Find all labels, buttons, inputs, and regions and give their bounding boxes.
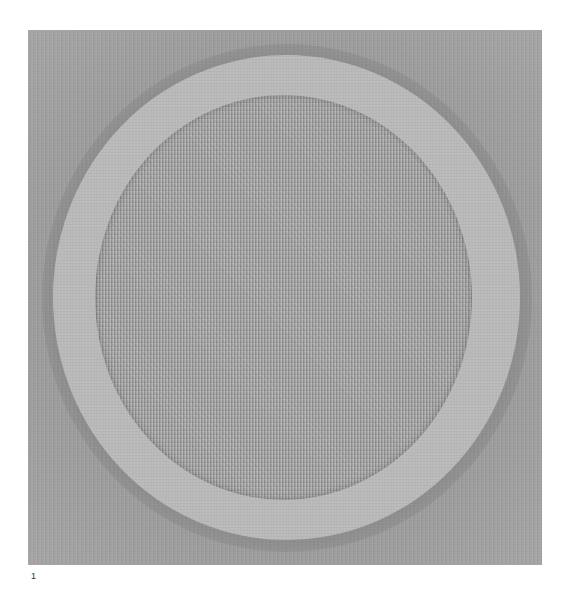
inner-textured-disc xyxy=(95,95,472,500)
figure-number: 1 xyxy=(31,570,36,582)
artwork-plate xyxy=(28,30,542,565)
